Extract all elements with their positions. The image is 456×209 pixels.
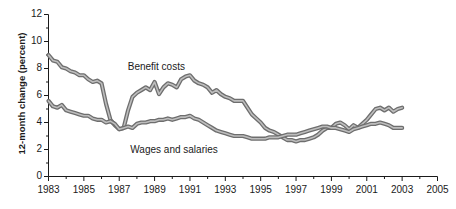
y-tick-label: 2 bbox=[18, 143, 42, 154]
x-tick-label: 1983 bbox=[29, 184, 69, 195]
y-tick-label: 6 bbox=[18, 89, 42, 100]
x-tick-label: 1993 bbox=[205, 184, 245, 195]
x-tick-label: 1987 bbox=[99, 184, 139, 195]
x-tick-label: 1997 bbox=[276, 184, 316, 195]
y-tick-label: 4 bbox=[18, 116, 42, 127]
x-tick-label: 2005 bbox=[418, 184, 456, 195]
x-tick-label: 2001 bbox=[347, 184, 387, 195]
y-tick-label: 8 bbox=[18, 62, 42, 73]
y-tick-label: 12 bbox=[18, 8, 42, 19]
chart-container: 12-month change (percent) 02468101219831… bbox=[0, 0, 456, 209]
y-tick-label: 0 bbox=[18, 170, 42, 181]
x-tick-label: 1985 bbox=[64, 184, 104, 195]
series-label-wages-and-salaries: Wages and salaries bbox=[130, 144, 217, 155]
x-tick-label: 1989 bbox=[135, 184, 175, 195]
chart-plot-area bbox=[0, 0, 456, 209]
x-tick-label: 1999 bbox=[311, 184, 351, 195]
x-tick-label: 1991 bbox=[170, 184, 210, 195]
data-series-group bbox=[49, 55, 403, 141]
x-tick-label: 2003 bbox=[382, 184, 422, 195]
y-tick-label: 10 bbox=[18, 35, 42, 46]
x-tick-label: 1995 bbox=[241, 184, 281, 195]
series-label-benefit-costs: Benefit costs bbox=[128, 61, 185, 72]
